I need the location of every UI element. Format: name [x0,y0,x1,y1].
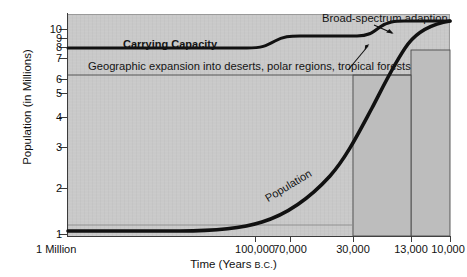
geographic-expansion-label: Geographic expansion into deserts, polar… [88,60,411,72]
shaded-box-middle [353,75,411,236]
y-axis-title: Population (in Millions) [21,17,33,197]
x-tickmark-10000 [450,236,451,242]
y-tick-label-6: 6 [56,74,62,85]
x-tick-label-30000: 30,000 [336,243,370,255]
x-tickmark-100000 [255,236,256,242]
x-tick-label-100000: 100,000 [235,243,275,255]
y-tick-label-2: 2 [56,183,62,194]
x-axis-title-era: B.C. [255,260,273,270]
y-tick-label-4: 4 [56,112,62,123]
y-tick-label-1: 1 [56,229,62,240]
x-tick-label-1-million: 1 Million [36,243,76,255]
x-tick-label-10000: 10,000 [431,243,465,255]
y-tick-label-5: 5 [56,88,62,99]
x-tickmark-70000 [290,236,291,242]
broad-spectrum-adaption-label: Broad-spectrum adaption [322,12,448,24]
x-axis-title-prefix: Time (Years [190,258,254,270]
carrying-capacity-label: Carrying Capacity [123,38,217,50]
shaded-box-right [411,50,450,236]
y-tick-label-3: 3 [56,142,62,153]
population-carrying-capacity-chart: 10 9 8 7 6 5 4 3 2 1 1 Million 100,000 7… [0,0,467,277]
chart-vector-layer [0,0,467,277]
x-tick-label-13000: 13,000 [394,243,428,255]
x-tick-label-70000: 70,000 [273,243,307,255]
y-tick-label-7: 7 [56,53,62,64]
x-tickmark-30000 [353,236,354,242]
x-axis-title-suffix: ) [273,258,277,270]
x-axis-title: Time (Years B.C.) [0,258,467,270]
x-tickmark-13000 [411,236,412,242]
